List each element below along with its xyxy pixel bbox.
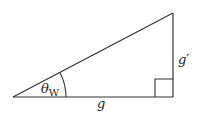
- angle-arc: [60, 72, 66, 97]
- right-angle-marker: [155, 79, 173, 97]
- angle-label: θW: [41, 81, 60, 98]
- height-label: g′: [178, 52, 189, 67]
- base-label: g: [97, 96, 105, 111]
- right-triangle-diagram: θW g g′: [0, 0, 202, 115]
- hypotenuse: [13, 13, 173, 97]
